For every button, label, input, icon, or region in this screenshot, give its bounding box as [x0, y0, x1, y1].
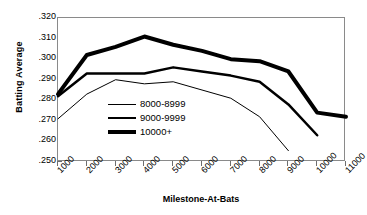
y-axis-tick-label: .280	[20, 94, 56, 103]
y-axis-tick-label: .270	[20, 115, 56, 124]
y-axis-tick-labels: .320.310.300.290.280.270.260.250	[12, 0, 56, 215]
chart-legend: 8000-8999 9000-9999 10000+	[108, 97, 208, 139]
legend-item-8000-8999: 8000-8999	[108, 97, 208, 111]
legend-item-9000-9999: 9000-9999	[108, 111, 208, 125]
plot-area	[57, 17, 345, 161]
legend-label: 10000+	[140, 127, 172, 137]
legend-line-thin-icon	[108, 104, 136, 105]
y-axis-tick-label: .250	[20, 156, 56, 165]
legend-line-thick-icon	[108, 130, 136, 134]
y-axis-tick-label: .260	[20, 135, 56, 144]
x-axis-title: Milestone-At-Bats	[57, 194, 345, 204]
y-axis-tick-label: .310	[20, 33, 56, 42]
series-lines	[58, 18, 346, 162]
x-axis-tick-label: 11000	[343, 151, 367, 175]
legend-label: 9000-9999	[140, 113, 185, 123]
legend-item-10000-plus: 10000+	[108, 125, 208, 139]
y-axis-tick-label: .320	[20, 12, 56, 21]
y-axis-tick-label: .290	[20, 74, 56, 83]
legend-label: 8000-8999	[140, 99, 185, 109]
y-axis-tick-label: .300	[20, 53, 56, 62]
legend-line-medium-icon	[108, 117, 136, 120]
